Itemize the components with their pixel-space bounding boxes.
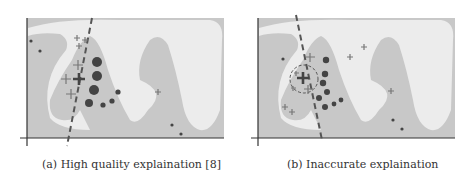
panel-a: (a) High quality explaination [8] (0, 0, 230, 150)
caption-a: (a) High quality explaination [8] (42, 158, 221, 171)
panel-b: (b) Inaccurate explaination (225, 0, 455, 150)
caption-b: (b) Inaccurate explaination (287, 158, 438, 171)
panel-b-plot (225, 0, 455, 150)
panel-a-plot (0, 0, 230, 150)
